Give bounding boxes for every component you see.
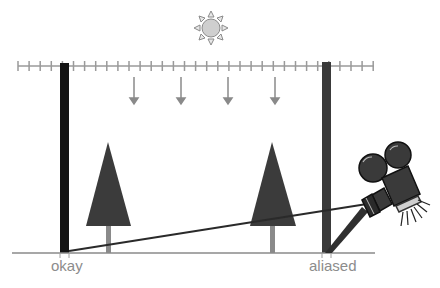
occluder-bar-okay (60, 63, 69, 253)
sampling-ruler (18, 61, 374, 71)
label-aliased: aliased (309, 257, 357, 274)
down-arrow-icon (130, 77, 138, 104)
label-okay: okay (51, 257, 83, 274)
tree-icon (86, 142, 131, 253)
light-arrows (130, 77, 279, 104)
tree-icon (250, 142, 296, 253)
down-arrow-icon (177, 77, 185, 104)
down-arrow-icon (271, 77, 279, 104)
down-arrow-icon (224, 77, 232, 104)
sight-wedge-aliased (325, 207, 368, 253)
movie-camera-icon (359, 142, 430, 226)
occluder-bar-aliased (322, 62, 331, 253)
sun-icon (194, 11, 228, 45)
diagram-canvas (0, 0, 440, 288)
